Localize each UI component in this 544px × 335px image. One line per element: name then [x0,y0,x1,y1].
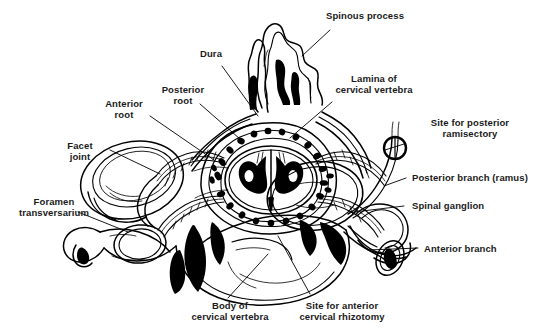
anatomical-figure: .ol { fill:none; stroke:#000; stroke-wid… [0,0,544,335]
label-posterior-branch-ramus: Posterior branch (ramus) [412,172,544,183]
label-posterior-root: Posterior root [148,84,218,106]
label-body-of-cervical-vertebra: Body of cervical vertebra [178,300,282,322]
label-site-for-posterior-ramisectory: Site for posterior ramisectory [410,117,530,139]
spinal-cord [225,146,317,214]
label-lamina-of-cervical-vertebra: Lamina of cervical vertebra [322,73,426,95]
label-facet-joint: Facet joint [52,140,108,162]
label-site-for-anterior-cervical-rhizotomy: Site for anterior cervical rhizotomy [286,300,398,322]
label-spinal-ganglion: Spinal ganglion [412,200,532,211]
label-anterior-branch: Anterior branch [424,243,534,254]
ramisectomy-site-marker [384,137,406,159]
leader-spinous-process [302,30,330,56]
vertebra-illustration: .ol { fill:none; stroke:#000; stroke-wid… [0,0,544,335]
leader-facet-joint [110,150,160,174]
body-shadow-left [170,250,186,294]
label-foramen-transversarium: Foramen transversarium [2,196,106,218]
leader-body [228,254,268,298]
leader-anterior-root [150,116,214,160]
label-anterior-root: Anterior root [90,98,158,120]
label-spinous-process: Spinous process [300,10,430,21]
label-dura: Dura [186,48,236,59]
